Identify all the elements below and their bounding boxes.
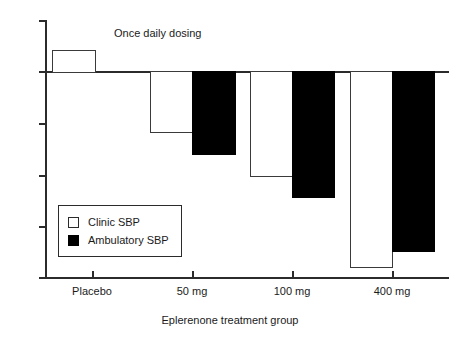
chart-annotation: Once daily dosing [114,27,201,39]
y-tick-minus12 [39,226,45,228]
chart-figure: 4 0 -4 -8 -12 -16 Once daily dosing Clin… [0,0,460,342]
x-axis-line [45,277,449,279]
chart-legend: Clinic SBP Ambulatory SBP [58,205,182,257]
x-tick-placebo [92,271,94,277]
y-tick-4 [39,20,45,22]
bar-50mg-clinic [150,71,193,133]
x-tick-50mg [192,271,194,277]
x-tick-400mg [392,271,394,277]
bar-placebo-clinic [52,50,96,73]
x-tick-label-400mg: 400 mg [352,286,432,297]
bar-400mg-ambulatory [392,71,435,252]
y-tick-minus4 [39,123,45,125]
legend-item-ambulatory: Ambulatory SBP [68,231,169,249]
y-tick-minus16 [39,277,45,279]
legend-swatch-ambulatory-icon [68,235,79,246]
x-axis-title: Eplerenone treatment group [0,314,460,326]
legend-label-ambulatory: Ambulatory SBP [88,234,169,246]
x-tick-label-100mg: 100 mg [252,286,332,297]
legend-item-clinic: Clinic SBP [68,213,169,231]
bar-100mg-clinic [250,71,293,177]
y-tick-0 [39,71,45,73]
x-tick-label-placebo: Placebo [52,286,132,297]
x-tick-label-50mg: 50 mg [152,286,232,297]
y-tick-minus8 [39,175,45,177]
x-tick-100mg [292,271,294,277]
y-axis-line [45,20,47,279]
legend-swatch-clinic-icon [68,217,79,228]
bar-50mg-ambulatory [192,71,236,155]
bar-400mg-clinic [350,71,393,268]
legend-label-clinic: Clinic SBP [88,216,140,228]
bar-100mg-ambulatory [292,71,335,198]
